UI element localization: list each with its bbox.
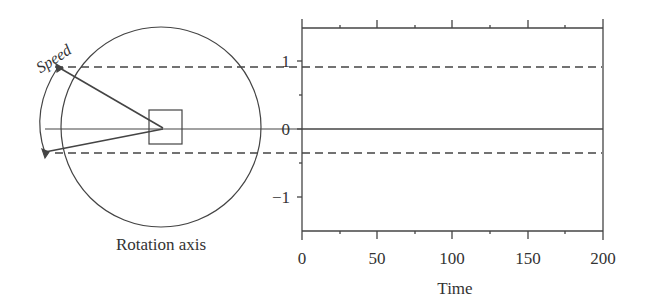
x-tick-label-200: 200 — [590, 249, 616, 268]
y-tick-label-1: 1 — [282, 52, 291, 71]
rotation-diagram — [40, 27, 302, 227]
x-tick-label-100: 100 — [439, 249, 465, 268]
speed-vector-upper — [58, 67, 163, 128]
y-axis-ticks — [297, 61, 302, 197]
speed-arc — [40, 67, 58, 153]
top-ticks — [340, 20, 565, 28]
x-tick-label-50: 50 — [369, 249, 386, 268]
rotation-axis-box — [149, 110, 182, 144]
figure: Speed Rotation axis — [0, 0, 647, 306]
plot-area — [297, 19, 603, 240]
arrowhead-lower-icon — [42, 149, 49, 158]
x-axis-ticks — [340, 231, 565, 239]
speed-vector-lower — [45, 129, 163, 152]
x-axis-title: Time — [437, 279, 472, 298]
y-tick-label-neg1: −1 — [272, 188, 290, 207]
speed-label: Speed — [33, 40, 76, 76]
x-tick-label-150: 150 — [515, 249, 541, 268]
rotation-axis-label: Rotation axis — [116, 235, 206, 254]
y-tick-label-0: 0 — [282, 120, 291, 139]
x-tick-label-0: 0 — [298, 249, 307, 268]
